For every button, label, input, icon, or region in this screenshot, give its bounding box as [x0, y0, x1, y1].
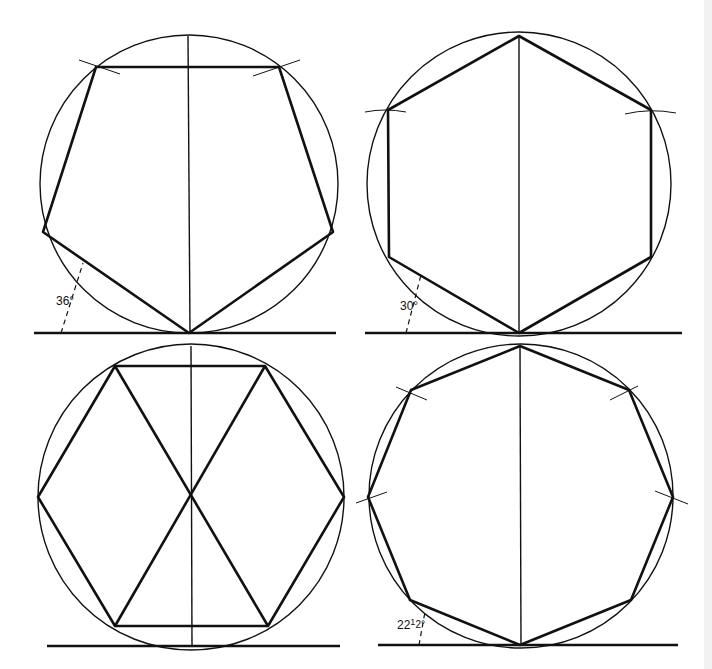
geometry-constructions: 36° 30° 2212° [0, 0, 712, 669]
angle-label-30: 30° [400, 299, 418, 313]
octagon-axis [520, 346, 521, 645]
pentagon-construction: 36° [34, 35, 338, 333]
angle-label-22-5: 2212° [397, 617, 425, 632]
hexagon-pointed-construction: 30° [365, 32, 682, 336]
octagon-construction: 2212° [356, 344, 688, 648]
hexagon-flat-construction [38, 344, 344, 650]
pentagon-axis [188, 36, 190, 333]
angle-label-36: 36° [56, 294, 74, 308]
arc-mark [356, 492, 387, 503]
